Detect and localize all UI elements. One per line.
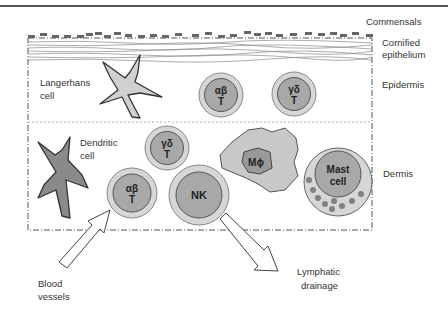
dermis-label: Dermis	[383, 168, 413, 180]
langerhans-label-line1: Langerhans	[40, 77, 90, 89]
skin-diagram: αβ T γδ T γδ T αβ T NK Mϕ Mast cell	[0, 0, 448, 314]
svg-text:Mϕ: Mϕ	[248, 157, 264, 168]
svg-text:αβ: αβ	[215, 85, 227, 96]
lymphatic-label-line1: Lymphatic	[297, 266, 340, 278]
langerhans-cell-shape	[100, 55, 162, 118]
svg-text:Mast: Mast	[327, 164, 350, 175]
svg-text:cell: cell	[330, 176, 347, 187]
dendritic-label-line2: cell	[80, 150, 94, 162]
blood-vessels-label-line1: Blood	[38, 278, 62, 290]
svg-text:T: T	[164, 149, 170, 160]
svg-text:NK: NK	[191, 189, 207, 201]
cornified-label-line2: epithelium	[382, 49, 425, 61]
blood-vessels-arrow	[59, 210, 110, 268]
svg-text:γδ: γδ	[161, 138, 173, 149]
svg-text:T: T	[291, 95, 297, 106]
dendritic-label-line1: Dendritic	[80, 137, 118, 149]
svg-text:γδ: γδ	[288, 84, 300, 95]
lymphatic-label-line2: drainage	[301, 280, 338, 292]
svg-text:T: T	[218, 96, 224, 107]
commensals-label: Commensals	[366, 16, 421, 28]
blood-vessels-label-line2: vessels	[38, 291, 70, 303]
cornified-epithelium	[28, 40, 372, 62]
lymphatic-drainage-arrow	[220, 213, 278, 271]
cornified-label-line1: Cornified	[382, 37, 420, 49]
commensals	[28, 31, 373, 38]
langerhans-label-line2: cell	[40, 90, 54, 102]
svg-text:T: T	[129, 194, 135, 205]
svg-text:αβ: αβ	[126, 183, 138, 194]
epidermis-label: Epidermis	[382, 79, 424, 91]
